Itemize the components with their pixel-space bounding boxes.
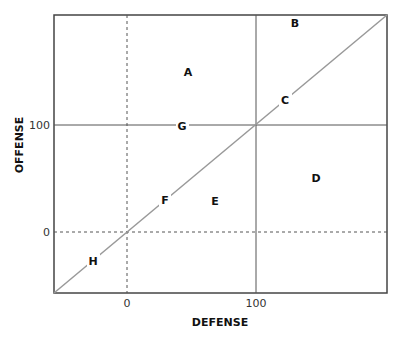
x-tick-0: 0 — [124, 297, 131, 310]
y-tick-100: 100 — [29, 119, 50, 132]
x-tick-100: 100 — [246, 297, 267, 310]
x-axis-title: DEFENSE — [192, 316, 248, 329]
chart-canvas: 100 0 0 100 DEFENSE OFFENSE A B C D E F … — [0, 0, 397, 338]
point-c: C — [281, 94, 289, 107]
diagonal-line — [54, 15, 387, 293]
point-a: A — [184, 66, 193, 79]
point-d: D — [311, 172, 320, 185]
point-g: G — [177, 120, 186, 133]
point-f: F — [161, 194, 169, 207]
y-tick-0: 0 — [43, 226, 50, 239]
point-b: B — [291, 17, 299, 30]
point-e: E — [211, 195, 219, 208]
point-h: H — [88, 255, 97, 268]
y-axis-title: OFFENSE — [13, 117, 26, 174]
